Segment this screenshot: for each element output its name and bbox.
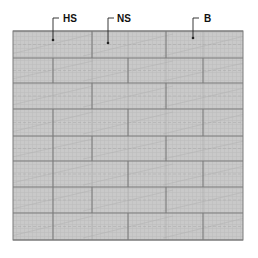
label-text-hs: HS — [63, 13, 77, 24]
pointer-dot-b — [192, 37, 195, 40]
brick-wall-diagram: HS NS B — [0, 0, 258, 258]
wall — [3, 31, 253, 240]
label-text-ns: NS — [117, 13, 131, 24]
pointer-dot-ns — [107, 42, 110, 45]
pointer-dot-hs — [52, 39, 55, 42]
label-text-b: B — [204, 13, 211, 24]
